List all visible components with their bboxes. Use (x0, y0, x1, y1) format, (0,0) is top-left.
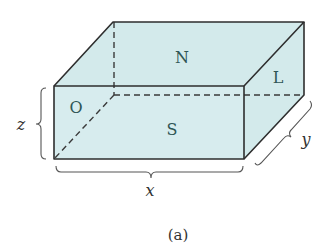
face-label-left: O (69, 98, 82, 117)
height-label: z (16, 115, 26, 134)
face-label-right: L (273, 68, 284, 87)
figure-caption: (a) (168, 226, 189, 244)
face-label-front: S (167, 120, 178, 139)
width-brace (56, 166, 243, 178)
box-diagram: N S O L z x y (a) (0, 0, 325, 248)
face-label-top: N (175, 48, 189, 67)
depth-label: y (300, 130, 311, 149)
height-brace (36, 88, 46, 159)
front-face (54, 86, 244, 159)
width-label: x (145, 181, 154, 200)
